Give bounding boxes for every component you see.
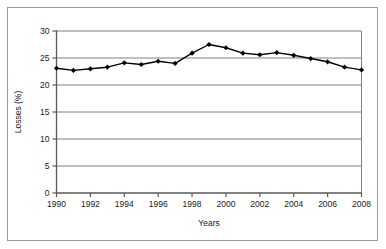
data-point (223, 45, 228, 50)
data-point (139, 62, 144, 67)
x-tick-label: 2006 (318, 199, 337, 209)
data-point (206, 42, 211, 47)
data-point (359, 67, 364, 72)
x-axis-title: Years (198, 218, 219, 228)
x-tick-label: 2008 (352, 199, 371, 209)
data-point (54, 66, 59, 71)
y-tick-label: 20 (40, 80, 50, 90)
y-tick-label: 10 (40, 134, 50, 144)
data-point (122, 60, 127, 65)
data-point (342, 65, 347, 70)
x-tick-label: 2004 (284, 199, 303, 209)
x-tick-label: 1990 (47, 199, 66, 209)
data-point (71, 68, 76, 73)
x-tick-label: 1992 (81, 199, 100, 209)
data-point (240, 51, 245, 56)
data-point (257, 52, 262, 57)
gridlines (57, 31, 362, 166)
data-point (325, 59, 330, 64)
y-tick-label: 30 (40, 26, 50, 36)
x-tick-label: 2000 (216, 199, 235, 209)
y-tick-label: 25 (40, 53, 50, 63)
data-line-losses (57, 45, 362, 71)
y-tick-label: 5 (45, 161, 50, 171)
y-axis-ticks: 051015202530 (40, 26, 56, 198)
data-point (291, 53, 296, 58)
data-point (308, 56, 313, 61)
chart-figure: 0510152025301990199219941996199820002002… (0, 0, 386, 249)
line-chart: 0510152025301990199219941996199820002002… (0, 0, 386, 249)
data-point (156, 59, 161, 64)
y-tick-label: 15 (40, 107, 50, 117)
x-tick-label: 1994 (115, 199, 134, 209)
x-tick-label: 1996 (149, 199, 168, 209)
data-point (105, 65, 110, 70)
x-tick-label: 1998 (183, 199, 202, 209)
y-axis-title: Losses (%) (13, 91, 23, 134)
x-axis-ticks: 1990199219941996199820002002200420062008 (47, 193, 371, 209)
x-tick-label: 2002 (250, 199, 269, 209)
data-point (274, 50, 279, 55)
data-point (88, 66, 93, 71)
y-tick-label: 0 (45, 188, 50, 198)
